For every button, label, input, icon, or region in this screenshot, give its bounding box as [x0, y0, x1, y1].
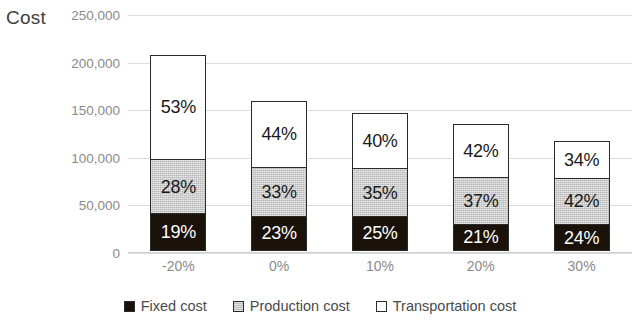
bar-segment[interactable]: 28%: [150, 159, 206, 214]
legend-label: Production cost: [250, 298, 350, 314]
bar-segment[interactable]: 19%: [150, 213, 206, 251]
gridline: [128, 253, 632, 254]
x-axis-tick-label: 30%: [568, 258, 596, 274]
x-axis-tick-label: 0%: [269, 258, 289, 274]
bar-column[interactable]: 53%28%19%: [150, 55, 206, 253]
bar-segment-percent-label: 53%: [161, 98, 196, 116]
x-axis-tick-labels: -20%0%10%20%30%: [128, 258, 632, 282]
bar-segment-percent-label: 35%: [362, 184, 397, 202]
y-axis-tick-label: 0: [0, 246, 120, 261]
bar-segment[interactable]: 53%: [150, 55, 206, 160]
bar-segment[interactable]: 24%: [554, 224, 610, 251]
bar-segment[interactable]: 25%: [352, 216, 408, 251]
y-axis-tick-label: 50,000: [0, 198, 120, 213]
legend-swatch-icon: [233, 301, 244, 312]
y-axis-tick-label: 150,000: [0, 103, 120, 118]
y-axis-tick-label: 200,000: [0, 55, 120, 70]
x-axis-tick-label: 20%: [467, 258, 495, 274]
legend-swatch-icon: [376, 301, 387, 312]
bar-segment[interactable]: 42%: [453, 124, 509, 178]
y-axis-tick-label: 250,000: [0, 8, 120, 23]
bar-segment-percent-label: 42%: [463, 142, 498, 160]
legend-item[interactable]: Transportation cost: [376, 298, 517, 314]
bar-segment-percent-label: 37%: [463, 192, 498, 210]
bar-segment[interactable]: 40%: [352, 113, 408, 169]
bar-column[interactable]: 44%33%23%: [251, 101, 307, 253]
stacked-bar-chart: Cost 050,000100,000150,000200,000250,000…: [0, 0, 640, 323]
legend-swatch-icon: [124, 301, 135, 312]
bar-segment[interactable]: 37%: [453, 177, 509, 225]
bar-segment-percent-label: 24%: [564, 229, 599, 247]
x-axis-tick-label: -20%: [162, 258, 195, 274]
bar-column[interactable]: 34%42%24%: [554, 141, 610, 253]
y-axis-tick-labels: 050,000100,000150,000200,000250,000: [0, 15, 120, 253]
bar-column[interactable]: 42%37%21%: [453, 124, 509, 253]
legend-item[interactable]: Fixed cost: [124, 298, 207, 314]
bar-series-area: 53%28%19%44%33%23%40%35%25%42%37%21%34%4…: [128, 15, 632, 253]
bar-segment-percent-label: 40%: [362, 132, 397, 150]
x-axis-tick-label: 10%: [366, 258, 394, 274]
chart-legend: Fixed costProduction costTransportation …: [0, 293, 640, 319]
bar-segment-percent-label: 34%: [564, 151, 599, 169]
legend-item[interactable]: Production cost: [233, 298, 350, 314]
bar-column[interactable]: 40%35%25%: [352, 113, 408, 253]
bar-segment[interactable]: 44%: [251, 101, 307, 168]
bar-segment[interactable]: 21%: [453, 224, 509, 251]
bar-segment-percent-label: 23%: [262, 224, 297, 242]
bar-segment-percent-label: 21%: [463, 228, 498, 246]
bar-segment[interactable]: 42%: [554, 178, 610, 225]
bar-segment-percent-label: 25%: [362, 224, 397, 242]
legend-label: Transportation cost: [393, 298, 517, 314]
bar-segment[interactable]: 33%: [251, 167, 307, 217]
bar-segment[interactable]: 34%: [554, 141, 610, 179]
bar-segment-percent-label: 33%: [262, 183, 297, 201]
bar-segment-percent-label: 28%: [161, 178, 196, 196]
bar-segment-percent-label: 42%: [564, 192, 599, 210]
y-axis-tick-label: 100,000: [0, 150, 120, 165]
bar-segment-percent-label: 19%: [161, 223, 196, 241]
legend-label: Fixed cost: [141, 298, 207, 314]
bar-segment[interactable]: 23%: [251, 216, 307, 251]
bar-segment[interactable]: 35%: [352, 168, 408, 217]
bar-segment-percent-label: 44%: [262, 125, 297, 143]
